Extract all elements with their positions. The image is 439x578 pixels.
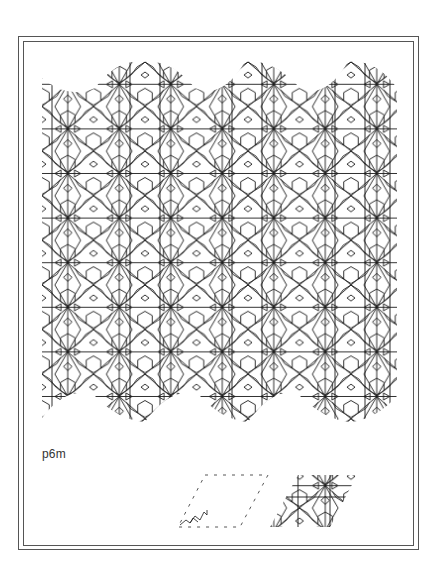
- unit-cell-dashed-outline: [178, 475, 268, 527]
- pattern-illustration: [0, 0, 439, 578]
- symmetry-group-label: p6m: [42, 447, 66, 461]
- unit-cell-filled: [268, 472, 360, 530]
- p6m-tessellation: [38, 56, 402, 428]
- unit-cell-fragment: [180, 510, 207, 525]
